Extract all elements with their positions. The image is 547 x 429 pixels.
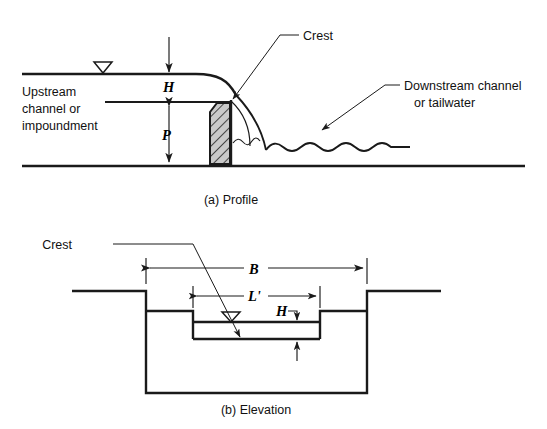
profile-caption: (a) Profile — [204, 193, 258, 207]
elevation-crest-length-label: L' — [247, 288, 261, 304]
profile-upstream-label-line1: Upstream — [22, 85, 76, 99]
figure-background — [0, 0, 547, 429]
profile-crest-label: Crest — [303, 29, 333, 43]
weir-body-hatched — [210, 103, 230, 164]
profile-downstream-label-line2: or tailwater — [414, 96, 475, 110]
elevation-crest-label: Crest — [42, 238, 72, 252]
profile-head-label: H — [162, 79, 175, 95]
profile-weir-height-label: P — [162, 127, 171, 143]
elevation-caption: (b) Elevation — [221, 403, 291, 417]
weir-definition-figure: H P Crest Upstream channel or impoundmen… — [0, 0, 547, 429]
profile-downstream-label-line1: Downstream channel — [404, 79, 521, 93]
figure-canvas: H P Crest Upstream channel or impoundmen… — [0, 0, 547, 429]
elevation-head-label: H — [275, 303, 288, 319]
elevation-channel-width-label: B — [248, 261, 259, 277]
profile-upstream-label-line3: impoundment — [22, 119, 98, 133]
profile-upstream-label-line2: channel or — [22, 102, 80, 116]
